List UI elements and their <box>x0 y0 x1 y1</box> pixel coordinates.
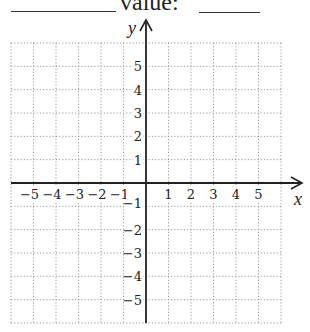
x-tick-label: 2 <box>187 187 195 202</box>
x-tick-label: 4 <box>232 187 240 202</box>
y-tick-label: 3 <box>134 106 142 121</box>
y-tick-label: −3 <box>123 246 142 261</box>
x-tick-label: 3 <box>209 187 217 202</box>
y-tick-label: −2 <box>123 223 142 238</box>
y-tick-label: 5 <box>134 59 142 74</box>
x-tick-label: 5 <box>254 187 262 202</box>
x-tick-label: −4 <box>42 187 61 202</box>
y-tick-label: −4 <box>123 269 142 284</box>
y-tick-label: −5 <box>123 293 142 308</box>
y-axis-label: y <box>126 18 136 38</box>
x-tick-label: −2 <box>87 187 106 202</box>
x-tick-label: −5 <box>20 187 39 202</box>
y-tick-label: 1 <box>134 153 142 168</box>
x-axis-label: x <box>293 189 302 209</box>
coordinate-plane: −5−4−3−2−11234554321−1−2−3−4−5 x y <box>0 0 310 332</box>
x-tick-label: −3 <box>65 187 84 202</box>
x-tick-label: 1 <box>164 187 172 202</box>
y-tick-label: −1 <box>123 196 142 211</box>
y-tick-label: 2 <box>134 129 142 144</box>
y-tick-label: 4 <box>134 83 142 98</box>
